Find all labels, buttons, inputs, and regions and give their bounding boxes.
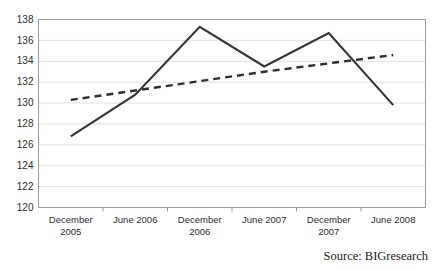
x-tick-label: December2005 [49,214,93,237]
x-tick-label: June 2007 [242,214,286,225]
source-attribution: Source: BIGresearch [324,249,428,264]
y-tick-label: 126 [17,139,34,150]
x-axis-tickmarks [103,208,361,212]
y-tick-label: 120 [17,202,34,213]
x-tick-label: June 2008 [371,214,415,225]
y-tick-label: 136 [17,35,34,46]
trendline-path [71,55,394,100]
line-chart: 120122124126128130132134136138 December2… [0,0,436,270]
y-axis-tick-labels: 120122124126128130132134136138 [17,14,34,213]
x-axis-tick-labels: December2005June 2006December2006June 20… [49,214,416,237]
x-tick-label: December2007 [307,214,351,237]
x-tick-label: June 2006 [113,214,157,225]
y-tick-label: 128 [17,118,34,129]
y-tick-label: 138 [17,14,34,25]
y-tick-label: 124 [17,160,34,171]
y-tick-label: 122 [17,181,34,192]
y-tick-label: 130 [17,97,34,108]
y-tick-label: 132 [17,76,34,87]
data-line-path [71,27,394,137]
y-tick-label: 134 [17,55,34,66]
chart-canvas: 120122124126128130132134136138 December2… [0,0,436,270]
series-data-line [71,27,394,137]
series-trendline [71,55,394,100]
x-tick-label: December2006 [178,214,222,237]
